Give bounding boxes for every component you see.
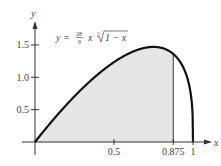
- x-tick-label: 1: [191, 146, 196, 157]
- shaded-region: [35, 47, 173, 142]
- y-tick-label: 1.0: [17, 72, 30, 83]
- y-axis-label: y: [30, 8, 36, 19]
- x-tick-label: 0.5: [108, 146, 121, 157]
- x-axis-label: x: [213, 137, 219, 148]
- y-ticks: 0.51.01.5: [17, 39, 40, 115]
- svg-text:28: 28: [76, 31, 82, 37]
- chart: 0.50.8751 0.51.01.5 x y y = 28 9 x 3 1 −…: [0, 0, 221, 166]
- svg-text:1 − x: 1 − x: [105, 32, 127, 43]
- x-tick-label: 0.875: [162, 146, 185, 157]
- svg-text:9: 9: [78, 39, 81, 45]
- svg-text:x: x: [87, 32, 93, 43]
- x-axis-arrow-icon: [204, 140, 212, 145]
- svg-text:y =: y =: [55, 32, 70, 43]
- y-tick-label: 0.5: [17, 104, 30, 115]
- y-tick-label: 1.5: [17, 39, 30, 50]
- y-axis-arrow-icon: [33, 21, 38, 29]
- svg-text:3: 3: [97, 31, 100, 36]
- equation: y = 28 9 x 3 1 − x: [55, 31, 128, 45]
